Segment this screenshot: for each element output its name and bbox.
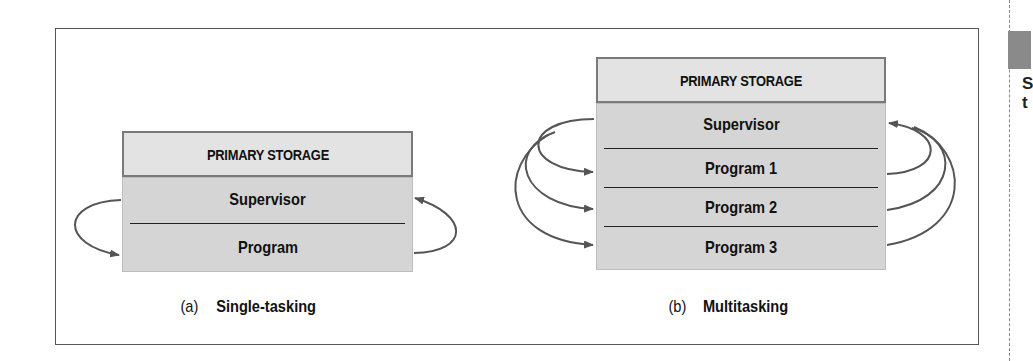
storage-header-label: PRIMARY STORAGE bbox=[680, 72, 802, 89]
row-supervisor: Supervisor bbox=[596, 103, 886, 147]
row-program-1: Program 1 bbox=[596, 149, 886, 188]
row-label: Supervisor bbox=[703, 115, 779, 135]
row-label: Program 3 bbox=[705, 238, 777, 258]
row-label: Program 1 bbox=[705, 159, 777, 179]
storage-header: PRIMARY STORAGE bbox=[122, 131, 413, 177]
row-program-2: Program 2 bbox=[596, 188, 886, 227]
row-label: Program 2 bbox=[705, 198, 777, 218]
caption-multitasking: (b)Multitasking bbox=[667, 297, 795, 317]
row-label: Supervisor bbox=[229, 190, 305, 210]
row-label: Program bbox=[237, 238, 297, 258]
caption-tag: (a) bbox=[180, 297, 198, 317]
primary-storage-single: PRIMARY STORAGE Supervisor Program bbox=[122, 131, 413, 272]
primary-storage-multi: PRIMARY STORAGE Supervisor Program 1 Pro… bbox=[596, 57, 886, 270]
row-program: Program bbox=[122, 224, 413, 272]
caption-text: Multitasking bbox=[703, 297, 788, 317]
storage-header-label: PRIMARY STORAGE bbox=[206, 146, 328, 163]
caption-single-tasking: (a)Single-tasking bbox=[179, 297, 324, 317]
storage-header: PRIMARY STORAGE bbox=[596, 57, 886, 103]
caption-tag: (b) bbox=[668, 297, 686, 317]
sidebar-text-fragment: t bbox=[1022, 93, 1028, 113]
row-supervisor: Supervisor bbox=[122, 177, 413, 223]
sidebar-text-fragment: S bbox=[1022, 74, 1033, 94]
sidebar-heading-block bbox=[1008, 31, 1031, 69]
caption-text: Single-tasking bbox=[216, 297, 316, 317]
row-program-3: Program 3 bbox=[596, 227, 886, 269]
